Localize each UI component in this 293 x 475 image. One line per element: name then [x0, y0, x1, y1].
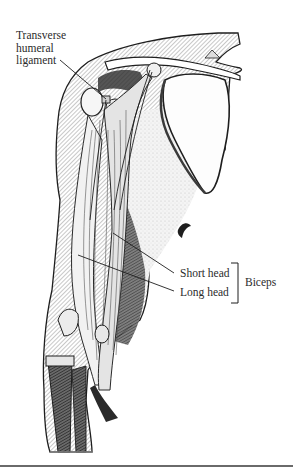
- label-line-3: ligament: [16, 54, 66, 67]
- anatomy-illustration: Transverse humeral ligament Short head L…: [0, 0, 293, 475]
- label-line-1: Transverse: [16, 29, 66, 42]
- coracoid: [147, 63, 161, 77]
- humeral-head: [81, 88, 103, 116]
- nipple: [178, 223, 191, 238]
- label-line-2: humeral: [16, 42, 66, 55]
- aponeurosis: [90, 385, 118, 422]
- bottom-rule-divider: [0, 465, 293, 467]
- arm-drawing: [0, 0, 293, 475]
- label-transverse-humeral-ligament: Transverse humeral ligament: [16, 29, 66, 67]
- biceps-bracket: [231, 263, 238, 303]
- label-biceps: Biceps: [245, 276, 276, 289]
- label-short-head: Short head: [180, 267, 230, 280]
- label-long-head: Long head: [180, 286, 229, 299]
